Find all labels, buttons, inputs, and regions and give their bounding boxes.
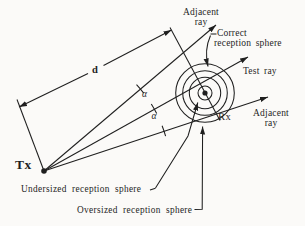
undersized-sphere-label: Undersized reception sphere (21, 184, 141, 195)
correct-sphere-leader-arrow (206, 36, 210, 67)
rx-label: Rx (218, 112, 231, 123)
distance-dimension-right (104, 30, 172, 66)
correct-sphere-label: Correct reception sphere (214, 28, 282, 49)
correct-sphere-line1: Correct (214, 28, 282, 39)
alpha-upper-label: α (142, 89, 147, 100)
tx-point (41, 168, 47, 174)
adjacent-ray-right-label: Adjacent ray (247, 108, 295, 129)
test-ray-label: Test ray (243, 66, 277, 77)
oversized-sphere-label: Oversized reception sphere (77, 205, 192, 216)
adjacent-ray-right-line2: ray (247, 118, 295, 129)
alpha-lower-label: α (152, 111, 157, 122)
undersized-sphere-leader-arrow (156, 103, 198, 189)
figure-stage: Adjacent ray Correct reception sphere Te… (0, 0, 305, 226)
adjacent-ray-top-line1: Adjacent (172, 7, 230, 18)
distance-label: d (92, 65, 98, 76)
distance-dimension-left (19, 74, 88, 108)
adjacent-ray-top-label: Adjacent ray (172, 7, 230, 28)
tx-label: Tx (15, 160, 32, 171)
oversized-sphere-leader-arrow (195, 127, 203, 210)
undersized-sphere-leader-dash (150, 188, 156, 190)
rx-point (202, 90, 207, 95)
adjacent-ray-top-line2: ray (172, 17, 230, 28)
correct-sphere-line2: reception sphere (214, 38, 282, 49)
adjacent-ray-right-line1: Adjacent (247, 108, 295, 119)
